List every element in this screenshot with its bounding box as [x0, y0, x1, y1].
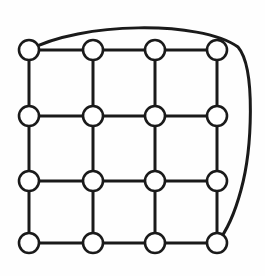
- graph-node-n33[interactable]: [207, 233, 227, 253]
- graph-node-n00[interactable]: [19, 40, 39, 60]
- graph-node-n23[interactable]: [207, 171, 227, 191]
- graph-node-n21[interactable]: [83, 171, 103, 191]
- graph-node-n30[interactable]: [19, 233, 39, 253]
- diagram-canvas: [0, 0, 265, 276]
- graph-node-n01[interactable]: [83, 40, 103, 60]
- graph-node-n11[interactable]: [83, 106, 103, 126]
- graph-node-n32[interactable]: [145, 233, 165, 253]
- graph-node-n03[interactable]: [207, 40, 227, 60]
- node-layer: [19, 40, 227, 253]
- graph-node-n31[interactable]: [83, 233, 103, 253]
- graph-node-n22[interactable]: [145, 171, 165, 191]
- edge-layer: [29, 50, 217, 243]
- graph-svg: [0, 0, 265, 276]
- graph-node-n20[interactable]: [19, 171, 39, 191]
- graph-node-n02[interactable]: [145, 40, 165, 60]
- graph-node-n10[interactable]: [19, 106, 39, 126]
- graph-node-n12[interactable]: [145, 106, 165, 126]
- graph-node-n13[interactable]: [207, 106, 227, 126]
